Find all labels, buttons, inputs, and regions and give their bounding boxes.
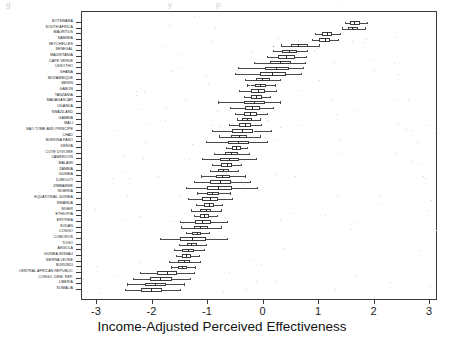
scan-speckle: [256, 281, 257, 282]
scan-speckle: [276, 174, 277, 175]
scan-speckle: [430, 286, 431, 287]
whisker-low: [196, 205, 204, 206]
cap-low: [226, 147, 227, 149]
whisker-low: [180, 222, 194, 223]
median-line: [197, 232, 198, 236]
cap-low: [197, 192, 198, 194]
median-line: [204, 214, 205, 218]
cap-high: [260, 118, 261, 120]
cap-low: [214, 153, 215, 155]
scan-speckle: [280, 219, 281, 220]
median-line: [222, 175, 223, 179]
cap-high: [319, 44, 320, 46]
y-tick-label: DJIBOUTI: [56, 179, 73, 183]
scan-speckle: [141, 109, 142, 110]
median-line: [151, 288, 152, 292]
ghost-glyph-d: .: [340, 0, 342, 10]
ghost-glyph-c: p: [216, 0, 220, 10]
whisker-high: [232, 165, 241, 166]
scan-speckle: [217, 111, 218, 112]
scan-speckle: [380, 196, 381, 197]
y-tick-label: GUINEA: [59, 173, 73, 177]
scan-speckle: [295, 176, 296, 177]
scan-speckle: [223, 292, 224, 293]
y-tick-label: NAMIBIA: [58, 37, 73, 41]
cap-high: [221, 209, 222, 211]
scan-speckle: [179, 196, 180, 197]
scan-speckle: [374, 70, 375, 71]
cap-low: [194, 181, 195, 183]
median-line: [256, 95, 257, 99]
median-line: [236, 146, 237, 150]
cap-low: [237, 118, 238, 120]
y-tick-label: MAURITUS: [54, 31, 73, 35]
scan-speckle: [417, 142, 418, 143]
scan-speckle: [226, 173, 227, 174]
cap-low: [140, 272, 141, 274]
median-line: [258, 89, 259, 93]
median-line: [160, 277, 161, 281]
median-line: [200, 226, 201, 230]
whisker-high: [249, 142, 267, 143]
cap-low: [212, 164, 213, 166]
whisker-low: [160, 239, 180, 240]
scan-speckle: [114, 276, 115, 277]
whisker-high: [360, 23, 367, 24]
cap-low: [181, 226, 182, 228]
x-tick-mark: [429, 300, 430, 304]
whisker-low: [238, 68, 265, 69]
whisker-high: [265, 91, 276, 92]
median-line: [272, 72, 273, 76]
x-tick-label: 1: [315, 305, 321, 317]
whisker-high: [265, 102, 281, 103]
scan-speckle: [199, 268, 200, 269]
cap-low: [235, 73, 236, 75]
whisker-high: [260, 108, 273, 109]
whisker-low: [186, 188, 207, 189]
scan-speckle: [127, 195, 128, 196]
y-tick-label: ZAMBIA: [59, 168, 73, 172]
whisker-high: [162, 290, 180, 291]
y-tick-label: CONGO, DEM. REP.: [38, 276, 73, 280]
whisker-high: [197, 245, 206, 246]
whisker-low: [125, 290, 142, 291]
scan-speckle: [412, 161, 413, 162]
cap-high: [249, 153, 250, 155]
whisker-high: [252, 120, 260, 121]
scan-speckle: [280, 127, 281, 128]
x-tick-label: -1: [202, 305, 212, 317]
scan-speckle: [277, 139, 278, 140]
scan-speckle: [408, 100, 409, 101]
whisker-high: [270, 80, 280, 81]
scan-speckle: [396, 37, 397, 38]
scan-speckle: [114, 130, 115, 131]
whisker-high: [166, 284, 184, 285]
scan-speckle: [427, 210, 428, 211]
cap-high: [301, 73, 302, 75]
cap-high: [276, 90, 277, 92]
whisker-low: [197, 193, 207, 194]
cap-low: [176, 255, 177, 257]
scan-speckle: [332, 100, 333, 101]
cap-high: [307, 50, 308, 52]
scan-speckle: [250, 260, 251, 261]
median-line: [252, 106, 253, 110]
scan-speckle: [251, 52, 252, 53]
scan-speckle: [215, 28, 216, 29]
scan-speckle: [370, 60, 371, 61]
scan-speckle: [352, 41, 353, 42]
median-line: [354, 21, 355, 25]
median-line: [242, 129, 243, 133]
y-tick-label: NIGER: [61, 208, 73, 212]
median-line: [276, 67, 277, 71]
y-tick-label: ANGOLA: [58, 247, 73, 251]
y-tick-label: CAPE VERDE: [49, 60, 73, 64]
whisker-high: [286, 74, 302, 75]
y-tick-label: KENYA: [61, 145, 73, 149]
whisker-high: [330, 40, 338, 41]
cap-high: [238, 170, 239, 172]
whisker-low: [181, 228, 193, 229]
scan-speckle: [336, 114, 337, 115]
y-tick-label: MALAWI: [58, 162, 73, 166]
cap-high: [340, 33, 341, 35]
